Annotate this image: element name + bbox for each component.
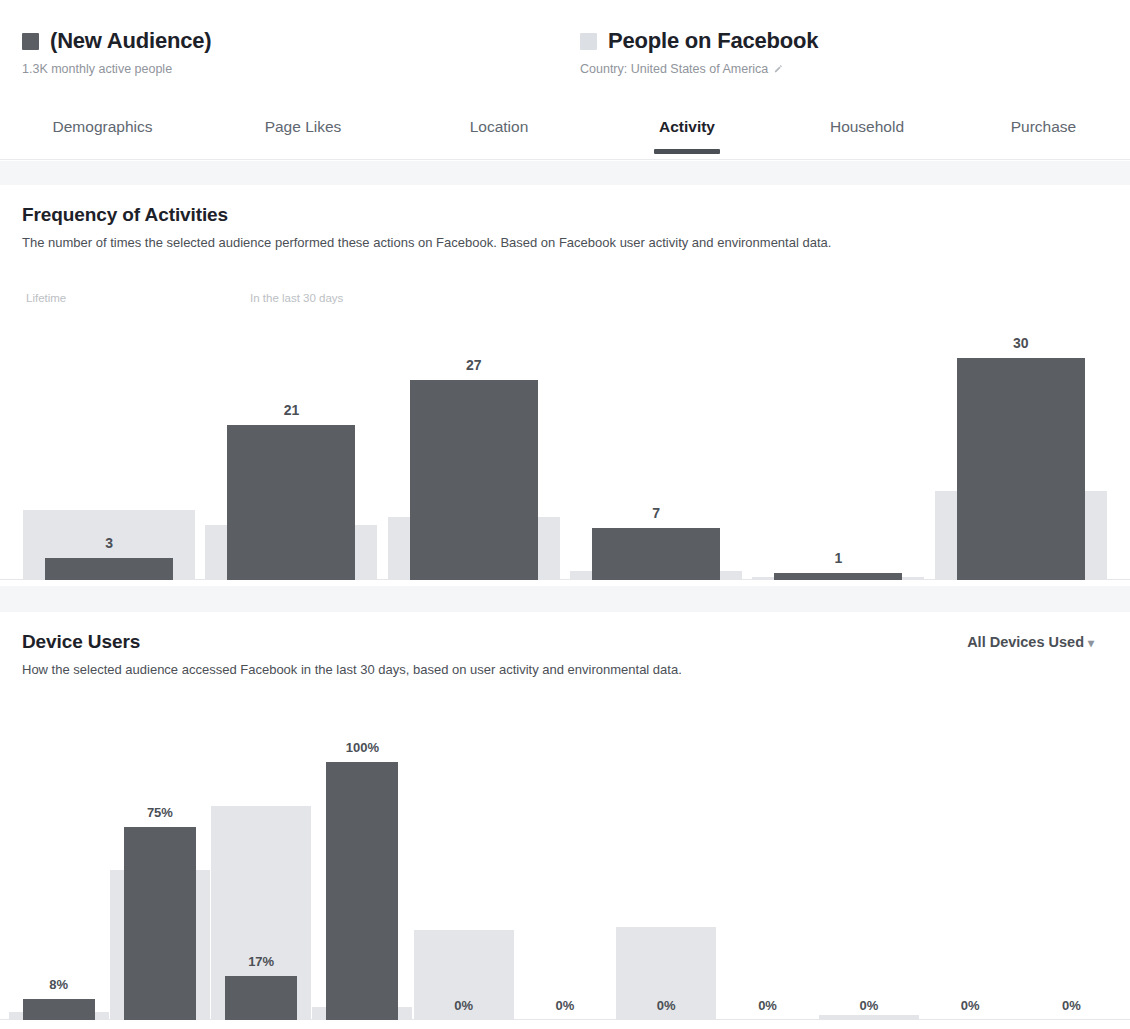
section-divider-middle <box>0 586 1130 612</box>
device-description: How the selected audience accessed Faceb… <box>22 661 682 678</box>
bar-group[interactable]: 0%iPad <box>514 762 615 1020</box>
facebook-summary: People on Facebook Country: United State… <box>580 28 818 78</box>
bar-group[interactable]: 21Comments <box>200 336 382 580</box>
tab-label: Purchase <box>1011 118 1076 135</box>
page-header: (New Audience) 1.3K monthly active peopl… <box>0 0 1130 104</box>
bar-group[interactable]: 0%Feature Phone <box>919 762 1020 1020</box>
facebook-country-text: Country: United States of America <box>580 62 768 76</box>
device-section-header: Device Users How the selected audience a… <box>22 630 682 678</box>
bar-value-label: 0% <box>818 998 919 1013</box>
benchmark-bar <box>819 1015 919 1020</box>
audience-bar <box>592 528 720 580</box>
bar-value-label: 0% <box>919 998 1020 1013</box>
bar-group[interactable]: 1Promotions Redeemed <box>747 336 929 580</box>
bar-value-label: 3 <box>18 535 200 551</box>
tab-demographics[interactable]: Demographics <box>0 118 205 150</box>
tab-bar: DemographicsPage LikesLocationActivityHo… <box>0 104 1130 160</box>
tab-label: Activity <box>659 118 715 135</box>
tab-label: Page Likes <box>265 118 342 135</box>
bar-value-label: 0% <box>616 998 717 1013</box>
bar-group[interactable]: 3Pages Liked <box>18 336 200 580</box>
bar-value-label: 0% <box>1021 998 1122 1013</box>
all-devices-used-label: All Devices Used <box>967 634 1084 650</box>
tab-activity[interactable]: Activity <box>597 118 777 150</box>
bar-group[interactable]: 0%iPhone/iPod <box>413 762 514 1020</box>
bar-group[interactable]: 0%Mobile Web <box>818 762 919 1020</box>
tab-location[interactable]: Location <box>401 118 597 150</box>
section-divider-top <box>0 161 1130 185</box>
bar-group[interactable]: 75%Desktop & Mobile <box>109 762 210 1020</box>
audience-bar <box>957 358 1085 580</box>
audience-bar <box>124 827 196 1021</box>
bar-value-label: 1 <box>747 550 929 566</box>
all-devices-used-dropdown[interactable]: All Devices Used▾ <box>967 634 1094 650</box>
frequency-of-activities-chart: 3Pages Liked21Comments27Posts Liked7Post… <box>0 300 1130 580</box>
bar-value-label: 75% <box>109 805 210 820</box>
frequency-section-header: Frequency of Activities The number of ti… <box>22 203 831 251</box>
bar-value-label: 27 <box>383 357 565 373</box>
device-title: Device Users <box>22 630 682 654</box>
audience-bar <box>45 558 173 580</box>
bar-value-label: 7 <box>565 505 747 521</box>
bar-value-label: 0% <box>717 998 818 1013</box>
audience-bar <box>225 976 297 1020</box>
bar-group[interactable]: 0%Blackberry <box>717 762 818 1020</box>
audience-title: (New Audience) <box>50 28 211 54</box>
facebook-subtitle: Country: United States of America <box>580 61 818 78</box>
audience-insights-page: (New Audience) 1.3K monthly active peopl… <box>0 0 1130 1029</box>
frequency-title: Frequency of Activities <box>22 203 831 227</box>
chevron-down-icon: ▾ <box>1088 636 1094 650</box>
bar-value-label: 30 <box>930 335 1112 351</box>
facebook-title: People on Facebook <box>608 28 818 54</box>
audience-bar <box>774 573 902 580</box>
tab-label: Location <box>470 118 529 135</box>
bar-group[interactable]: 7Posts Shared <box>565 336 747 580</box>
audience-bar <box>23 999 95 1020</box>
bar-group[interactable]: 30Ads Clicked <box>930 336 1112 580</box>
bar-group[interactable]: 0%Android <box>616 762 717 1020</box>
bar-group[interactable]: 27Posts Liked <box>383 336 565 580</box>
pencil-icon[interactable] <box>773 62 783 78</box>
tab-household[interactable]: Household <box>777 118 957 150</box>
bar-value-label: 8% <box>8 977 109 992</box>
bar-group[interactable]: 8%Desktop Only <box>8 762 109 1020</box>
legend-swatch-light-icon <box>580 33 597 50</box>
legend-swatch-dark-icon <box>22 33 39 50</box>
bar-value-label: 100% <box>312 740 413 755</box>
bar-value-label: 0% <box>413 998 514 1013</box>
device-users-chart: 8%Desktop Only75%Desktop & Mobile17%Mobi… <box>0 700 1130 1020</box>
bar-group[interactable]: 100%Computer <box>312 762 413 1020</box>
frequency-description: The number of times the selected audienc… <box>22 234 831 251</box>
audience-bar <box>326 762 398 1020</box>
audience-bar <box>410 380 538 580</box>
tab-label: Demographics <box>53 118 153 135</box>
tab-label: Household <box>830 118 904 135</box>
audience-bar <box>227 425 355 580</box>
bar-value-label: 21 <box>200 402 382 418</box>
bar-group[interactable]: 17%Mobile Only <box>211 762 312 1020</box>
bar-value-label: 0% <box>514 998 615 1013</box>
audience-subtitle: 1.3K monthly active people <box>22 61 211 77</box>
tab-page-likes[interactable]: Page Likes <box>205 118 401 150</box>
audience-summary: (New Audience) 1.3K monthly active peopl… <box>22 28 211 77</box>
bar-group[interactable]: 0%Unknown <box>1021 762 1122 1020</box>
tab-purchase[interactable]: Purchase <box>957 118 1130 150</box>
bar-value-label: 17% <box>211 954 312 969</box>
